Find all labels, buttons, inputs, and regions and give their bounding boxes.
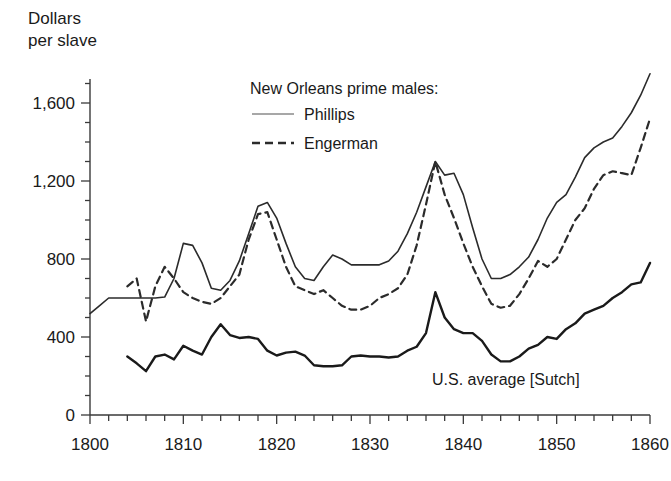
y-tick-label: 0 [66,406,75,425]
series-path-engerman [127,119,650,322]
y-tick-label: 1,200 [32,172,75,191]
x-tick-label: 1800 [71,435,109,454]
chart-page: Dollars per slave 04008001,2001,600 1800… [0,0,671,481]
series-path-phillips [90,74,650,314]
x-tick-label: 1820 [258,435,296,454]
y-tick-label: 1,600 [32,94,75,113]
slave-price-line-chart: Dollars per slave 04008001,2001,600 1800… [0,0,671,481]
x-tick-label: 1840 [444,435,482,454]
legend-label-engerman: Engerman [304,135,378,152]
legend-label-phillips: Phillips [304,106,355,123]
x-axis-tick-labels: 1800181018201830184018501860 [71,435,669,454]
x-tick-label: 1810 [164,435,202,454]
legend-title: New Orleans prime males: [250,80,439,97]
y-axis-title-line1: Dollars [28,9,81,28]
annotation-us-average: U.S. average [Sutch] [432,371,580,388]
y-tick-label: 800 [47,250,75,269]
x-axis-ticks [90,415,650,424]
series-group [90,74,650,371]
y-axis-title-line2: per slave [28,31,97,50]
series-path-u-s-average-sutch [127,263,650,371]
x-tick-label: 1830 [351,435,389,454]
y-tick-label: 400 [47,328,75,347]
y-axis-ticks [81,84,90,416]
y-axis-tick-labels: 04008001,2001,600 [32,94,75,425]
chart-legend: New Orleans prime males: Phillips Engerm… [250,80,439,152]
x-tick-label: 1850 [538,435,576,454]
x-tick-label: 1860 [631,435,669,454]
